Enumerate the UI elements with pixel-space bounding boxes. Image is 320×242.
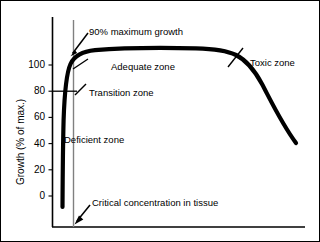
y-tick-label-0: 0 bbox=[20, 191, 45, 201]
y-tick-label-100: 100 bbox=[20, 60, 45, 70]
annotation-toxic-zone: Toxic zone bbox=[250, 57, 295, 68]
growth-curve bbox=[63, 48, 297, 207]
y-axis-title: Growth (% of max.) bbox=[16, 99, 26, 185]
annotation-deficient-zone: Deficient zone bbox=[64, 134, 124, 145]
annotation-ninety-percent-maximum-growth: 90% maximum growth bbox=[89, 26, 183, 37]
annotation-critical-concentration-in-tissue: Critical concentration in tissue bbox=[92, 197, 218, 208]
annotation-transition-zone: Transition zone bbox=[89, 87, 154, 98]
y-tick-label-80: 80 bbox=[20, 86, 45, 96]
transition-zone-leader bbox=[75, 84, 86, 95]
growth-response-chart: 100 80 60 40 20 0 Growth (% of max.) 90%… bbox=[0, 0, 320, 242]
critical-concentration-leader bbox=[75, 205, 91, 225]
annotation-adequate-zone: Adequate zone bbox=[111, 61, 175, 72]
